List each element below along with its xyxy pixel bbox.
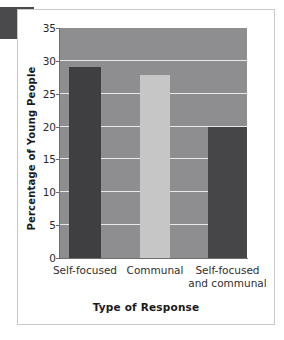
y-tick-mark xyxy=(56,225,60,226)
y-tick-mark xyxy=(56,192,60,193)
x-axis-line xyxy=(59,258,248,259)
x-tick-label: Self-focused xyxy=(46,264,124,277)
x-axis-title: Type of Response xyxy=(17,301,275,313)
y-tick-label: 30 xyxy=(34,56,56,66)
gridline xyxy=(60,60,247,61)
x-tick-label: Self-focusedand communal xyxy=(186,264,270,289)
y-tick-label: 25 xyxy=(34,89,56,99)
y-axis-title: Percentage of Young People xyxy=(26,56,37,242)
x-tick-label: Communal xyxy=(122,264,188,277)
y-tick-mark xyxy=(56,258,60,259)
y-tick-label: 0 xyxy=(34,253,56,263)
plot-area xyxy=(60,28,247,258)
y-tick-label: 20 xyxy=(34,122,56,132)
y-tick-mark xyxy=(56,94,60,95)
y-tick-label: 10 xyxy=(34,187,56,197)
y-tick-mark xyxy=(56,61,60,62)
y-tick-label: 15 xyxy=(34,154,56,164)
y-tick-mark xyxy=(56,159,60,160)
bar xyxy=(69,67,101,258)
y-tick-mark xyxy=(56,28,60,29)
chart-figure: 05101520253035 Percentage of Young Peopl… xyxy=(0,0,284,340)
y-tick-label: 5 xyxy=(34,220,56,230)
y-tick-mark xyxy=(56,127,60,128)
y-tick-label: 35 xyxy=(34,23,56,33)
bar xyxy=(140,75,170,258)
bar xyxy=(208,127,247,258)
